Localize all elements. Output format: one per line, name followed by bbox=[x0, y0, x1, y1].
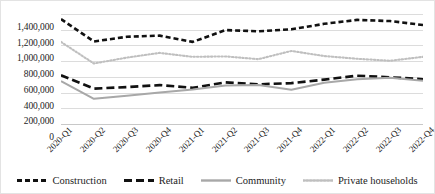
legend-swatch bbox=[201, 176, 231, 185]
legend-swatch bbox=[303, 176, 333, 185]
legend-item-retail[interactable]: Retail bbox=[124, 175, 184, 186]
y-axis-tick-label: 400,000 bbox=[24, 101, 54, 111]
chart-legend: ConstructionRetailCommunityPrivate house… bbox=[1, 175, 434, 186]
x-axis: 2020-Q12020-Q22020-Q32020-Q42021-Q12021-… bbox=[61, 125, 423, 171]
series-line-community bbox=[61, 78, 423, 99]
x-axis-tick-label: 2022-Q3 bbox=[374, 125, 403, 154]
legend-label: Community bbox=[236, 175, 286, 186]
legend-swatch bbox=[17, 176, 47, 185]
legend-label: Construction bbox=[52, 175, 106, 186]
legend-item-community[interactable]: Community bbox=[201, 175, 286, 186]
legend-label: Retail bbox=[159, 175, 184, 186]
legend-label: Private households bbox=[338, 175, 418, 186]
x-axis-tick-label: 2021-Q2 bbox=[209, 125, 238, 154]
x-axis-tick-label: 2021-Q4 bbox=[275, 125, 304, 154]
y-axis-tick-label: 200,000 bbox=[24, 116, 54, 126]
legend-item-private-households[interactable]: Private households bbox=[303, 175, 418, 186]
y-axis-tick-label: 600,000 bbox=[24, 85, 54, 95]
x-axis-tick-label: 2020-Q2 bbox=[78, 125, 107, 154]
plot-area bbox=[61, 14, 423, 124]
series-line-retail bbox=[61, 75, 423, 88]
x-axis-tick-label: 2020-Q4 bbox=[144, 125, 173, 154]
series-line-private-households bbox=[61, 42, 423, 64]
legend-item-construction[interactable]: Construction bbox=[17, 175, 106, 186]
y-axis-tick-label: 1,200,000 bbox=[17, 38, 54, 48]
x-axis-tick-label: 2022-Q2 bbox=[341, 125, 370, 154]
x-axis-tick-label: 2022-Q1 bbox=[308, 125, 337, 154]
chart-lines bbox=[61, 14, 423, 124]
y-axis-tick-label: 800,000 bbox=[24, 69, 54, 79]
y-axis-tick-label: 1,400,000 bbox=[17, 22, 54, 32]
y-axis-tick-label: 1,000,000 bbox=[17, 53, 54, 63]
chart-container: 0200,000400,000600,000800,0001,000,0001,… bbox=[0, 0, 435, 194]
series-line-construction bbox=[61, 19, 423, 42]
x-axis-tick-label: 2021-Q3 bbox=[242, 125, 271, 154]
x-axis-tick-label: 2021-Q1 bbox=[176, 125, 205, 154]
y-axis: 0200,000400,000600,000800,0001,000,0001,… bbox=[1, 14, 57, 124]
legend-swatch bbox=[124, 176, 154, 185]
x-axis-tick-label: 2022-Q4 bbox=[407, 125, 435, 154]
x-axis-tick-label: 2020-Q3 bbox=[111, 125, 140, 154]
